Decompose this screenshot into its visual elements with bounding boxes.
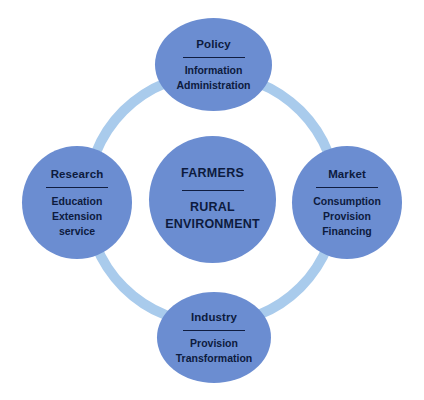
node-policy-item-1: Administration: [176, 79, 250, 91]
node-center-item-1: ENVIRONMENT: [165, 217, 260, 231]
node-policy-items: Information Administration: [176, 64, 250, 91]
node-industry-items: Provision Transformation: [176, 337, 252, 364]
node-market-item-2: Financing: [322, 225, 372, 237]
node-research-item-1: Extension: [52, 210, 102, 222]
node-market-title: Market: [328, 168, 366, 181]
node-policy[interactable]: Policy Information Administration: [155, 18, 272, 111]
node-policy-divider: [183, 57, 245, 58]
node-industry[interactable]: Industry Provision Transformation: [157, 292, 271, 383]
node-research-divider: [46, 187, 108, 188]
node-research-items: Education Extension service: [52, 195, 103, 237]
node-center-items: RURAL ENVIRONMENT: [165, 200, 260, 232]
node-market[interactable]: Market Consumption Provision Financing: [292, 146, 402, 259]
node-market-items: Consumption Provision Financing: [313, 195, 381, 237]
node-center-farmers[interactable]: FARMERS RURAL ENVIRONMENT: [149, 136, 276, 263]
cycle-diagram: Policy Information Administration Market…: [0, 0, 424, 400]
node-research-item-2: service: [59, 225, 95, 237]
node-industry-item-0: Provision: [190, 337, 238, 349]
node-research-title: Research: [51, 168, 104, 181]
node-industry-divider: [183, 330, 245, 331]
node-research[interactable]: Research Education Extension service: [22, 146, 132, 259]
node-center-title: FARMERS: [181, 167, 244, 181]
node-industry-title: Industry: [191, 311, 237, 324]
node-research-item-0: Education: [52, 195, 103, 207]
node-market-item-0: Consumption: [313, 195, 381, 207]
node-industry-item-1: Transformation: [176, 352, 252, 364]
node-market-item-1: Provision: [323, 210, 371, 222]
node-policy-item-0: Information: [185, 64, 243, 76]
node-market-divider: [316, 187, 378, 188]
node-policy-title: Policy: [196, 38, 230, 51]
node-center-divider: [182, 190, 244, 191]
node-center-item-0: RURAL: [190, 200, 235, 214]
